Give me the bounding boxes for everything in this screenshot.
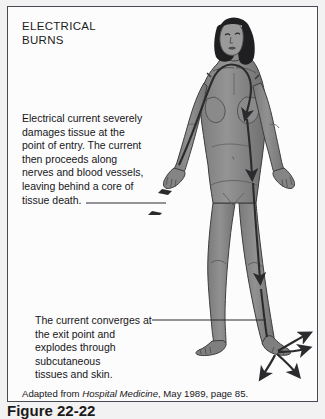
figure-caption-text: Figure 22-22 [7,405,95,419]
figure-caption-clipped: Figure 22-22 [7,405,325,419]
attribution-source: Hospital Medicine [82,388,158,399]
callout-entry-text: Electrical current severely damages tiss… [22,112,182,207]
figure-box: ELECTRICAL BURNS Electrical current seve… [7,6,318,402]
figure-page: ELECTRICAL BURNS Electrical current seve… [0,0,325,419]
attribution-prefix: Adapted from [22,388,82,399]
figure-title: ELECTRICAL BURNS [22,19,96,47]
attribution-suffix: , May 1989, page 85. [158,388,248,399]
callout-exit-text: The current converges at the exit point … [35,314,165,382]
attribution: Adapted from Hospital Medicine, May 1989… [22,388,248,400]
